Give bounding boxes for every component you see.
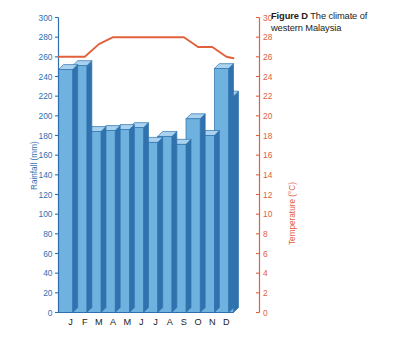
right-tick-label: 20 xyxy=(263,111,273,121)
left-tick-label: 60 xyxy=(43,249,53,259)
right-tick-label: 14 xyxy=(263,170,273,180)
bars-layer xyxy=(59,61,239,313)
left-tick-label: 220 xyxy=(39,91,53,101)
right-tick-label: 4 xyxy=(263,268,268,278)
right-tick-label: 24 xyxy=(263,72,273,82)
figure-label: Figure D xyxy=(271,11,308,21)
month-tick-a-3: A xyxy=(110,317,117,327)
left-tick-label: 160 xyxy=(39,150,53,160)
month-tick-j-6: J xyxy=(153,317,158,327)
left-tick-label: 20 xyxy=(43,288,53,298)
left-tick-label: 40 xyxy=(43,268,53,278)
left-tick-label: 80 xyxy=(43,229,53,239)
right-axis-title: Temperature (°C) xyxy=(288,182,297,245)
right-tick-label: 0 xyxy=(263,308,268,318)
left-tick-label: 240 xyxy=(39,72,53,82)
left-tick-label: 140 xyxy=(39,170,53,180)
left-tick-label: 100 xyxy=(39,209,53,219)
left-tick-label: 300 xyxy=(39,13,53,23)
month-tick-a-7: A xyxy=(167,317,174,327)
figure-caption: Figure D The climate of western Malaysia xyxy=(271,10,397,35)
left-tick-label: 0 xyxy=(48,308,53,318)
right-tick-label: 16 xyxy=(263,150,273,160)
left-axis-title: Rainfall (mm) xyxy=(30,141,39,190)
month-tick-d-11: D xyxy=(223,317,230,327)
right-tick-label: 26 xyxy=(263,52,273,62)
month-tick-j-0: J xyxy=(68,317,73,327)
right-tick-label: 12 xyxy=(263,190,273,200)
temperature-line xyxy=(59,37,234,58)
month-tick-m-4: M xyxy=(123,317,131,327)
month-tick-n-10: N xyxy=(209,317,216,327)
left-tick-label: 120 xyxy=(39,190,53,200)
bottom-axis: JFMAMJJASOND xyxy=(59,313,234,327)
month-tick-s-8: S xyxy=(181,317,187,327)
right-tick-label: 8 xyxy=(263,229,268,239)
left-tick-label: 200 xyxy=(39,111,53,121)
left-tick-label: 180 xyxy=(39,131,53,141)
left-tick-label: 260 xyxy=(39,52,53,62)
month-tick-o-9: O xyxy=(195,317,202,327)
right-tick-label: 6 xyxy=(263,249,268,259)
climate-figure: Figure D The climate of western Malaysia… xyxy=(0,0,401,342)
month-tick-m-2: M xyxy=(95,317,103,327)
month-tick-f-1: F xyxy=(82,317,88,327)
right-tick-label: 10 xyxy=(263,209,273,219)
left-axis: 3002802602402202001801601401201008060402… xyxy=(39,13,59,318)
right-axis: 302826242220181614121086420 xyxy=(256,13,273,318)
chart-canvas: 3002802602402202001801601401201008060402… xyxy=(0,0,401,342)
month-tick-j-5: J xyxy=(139,317,144,327)
left-tick-label: 280 xyxy=(39,32,53,42)
right-tick-label: 2 xyxy=(263,288,268,298)
right-tick-label: 18 xyxy=(263,131,273,141)
right-tick-label: 22 xyxy=(263,91,273,101)
bar-J xyxy=(59,65,78,313)
